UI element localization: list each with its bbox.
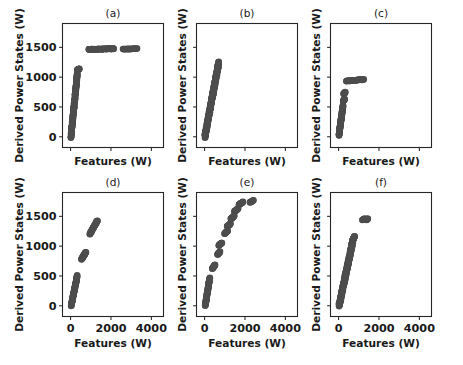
y-tick-label: 1500 [25,41,56,54]
scatter-point [83,249,90,256]
scatter-point [215,60,222,67]
scatter-point [240,199,247,206]
x-axis-label: Features (W) [208,155,286,167]
x-tick-label: 4000 [404,322,435,335]
subplot-e: 020004000(e)Features (W)Derived Power St… [176,176,302,349]
scatter-point [134,45,141,52]
y-tick-label: 1000 [25,240,56,253]
scatter-point [212,261,219,268]
scatter-point [74,272,81,279]
subplot-title-d: (d) [106,176,121,188]
plot-frame-d [63,193,164,317]
x-axis-label: Features (W) [208,337,286,349]
scatter-point [360,76,367,83]
plot-frame-c [331,24,432,148]
x-tick-label: 2000 [95,322,126,335]
y-tick-label: 500 [33,270,57,283]
scatter-point [351,233,358,240]
data-points-f [336,215,372,309]
data-points-d [68,217,101,309]
data-points-a [68,45,141,141]
y-tick-label: 1000 [25,71,56,84]
data-points-c [336,76,367,139]
x-axis-label: Features (W) [342,155,420,167]
plot-frame-f [331,193,432,317]
subplot-a: 050010001500(a)Features (W)Derived Power… [13,7,164,167]
x-tick-label: 0 [335,322,343,335]
plot-frame-e [197,193,298,317]
subplot-title-e: (e) [240,176,255,188]
y-tick-label: 0 [49,131,57,144]
scatter-grid-figure: 050010001500(a)Features (W)Derived Power… [0,0,463,365]
subplot-title-c: (c) [374,7,388,19]
data-points-b [202,59,223,141]
scatter-point [342,89,349,96]
subplot-c: (c)Features (W)Derived Power States (W) [310,7,432,167]
subplot-f: 020004000(f)Features (W)Derived Power St… [310,176,436,349]
data-points-e [202,197,257,309]
subplot-title-a: (a) [106,7,121,19]
y-tick-label: 500 [33,101,57,114]
scatter-point [207,275,214,282]
subplot-title-f: (f) [375,176,387,188]
y-axis-label: Derived Power States (W) [176,177,188,332]
subplot-d: 020004000050010001500(d)Features (W)Deri… [13,176,168,349]
scatter-point [365,215,372,222]
figure-container: 050010001500(a)Features (W)Derived Power… [0,0,463,365]
x-tick-label: 2000 [363,322,394,335]
x-tick-label: 2000 [229,322,260,335]
scatter-point [94,217,101,224]
x-tick-label: 0 [201,322,209,335]
y-axis-label: Derived Power States (W) [13,177,25,332]
x-tick-label: 0 [67,322,75,335]
subplot-title-b: (b) [240,7,255,19]
y-tick-label: 0 [49,300,57,313]
scatter-point [219,240,226,247]
subplot-b: (b)Features (W)Derived Power States (W) [176,7,298,167]
scatter-point [110,46,117,53]
scatter-point [217,248,224,255]
x-axis-label: Features (W) [74,155,152,167]
y-axis-label: Derived Power States (W) [13,8,25,163]
y-axis-label: Derived Power States (W) [310,8,322,163]
scatter-point [250,197,257,204]
y-axis-label: Derived Power States (W) [310,177,322,332]
x-axis-label: Features (W) [74,337,152,349]
scatter-point [76,66,83,73]
x-tick-label: 4000 [270,322,301,335]
x-tick-label: 4000 [136,322,167,335]
y-axis-label: Derived Power States (W) [176,8,188,163]
x-axis-label: Features (W) [342,337,420,349]
y-tick-label: 1500 [25,210,56,223]
